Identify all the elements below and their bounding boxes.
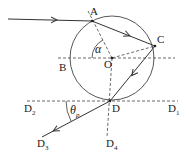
label-d3: D3 [37,138,48,152]
label-d4: D4 [106,138,117,152]
label-d2: D2 [24,103,35,117]
label-alpha: α [95,43,101,55]
normal-at-c [112,46,155,58]
refracted-ray-ac [92,21,155,46]
label-theta-p: θp [70,104,79,119]
reflected-ray-cd [110,46,155,101]
label-b: B [59,62,66,73]
incident-ray [8,19,92,21]
label-a: A [90,6,98,17]
label-d: D [112,103,120,114]
label-c: C [157,34,164,45]
ray-diagram [0,0,189,159]
label-d1: D1 [168,103,179,117]
label-o: O [104,59,112,70]
